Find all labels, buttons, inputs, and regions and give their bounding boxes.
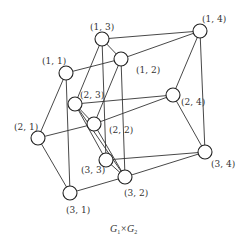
edge-1-1-to-2-1 xyxy=(38,73,66,138)
node-2-4 xyxy=(166,88,180,102)
edge-2-1-to-3-1 xyxy=(38,138,70,193)
node-label-2-3: (2, 3) xyxy=(80,90,104,100)
node-label-1-2: (1, 2) xyxy=(136,65,160,75)
node-label-1-4: (1, 4) xyxy=(202,14,226,24)
node-label-3-1: (3, 1) xyxy=(66,205,90,215)
edge-3-3-to-3-4 xyxy=(106,152,205,160)
diagram-caption: G1×G2 xyxy=(110,223,137,235)
labels-group: (1, 1)(1, 3)(1, 2)(1, 4)(2, 3)(2, 2)(2, … xyxy=(14,14,235,215)
edge-3-2-to-3-4 xyxy=(125,152,205,177)
edge-1-1-to-3-1 xyxy=(66,73,70,193)
edge-3-1-to-3-2 xyxy=(70,177,125,193)
edge-1-1-to-1-2 xyxy=(66,59,121,73)
node-label-3-4: (3, 4) xyxy=(211,159,235,169)
node-2-2 xyxy=(87,117,101,131)
node-label-3-2: (3, 2) xyxy=(124,188,148,198)
node-label-2-4: (2, 4) xyxy=(181,97,205,107)
node-2-1 xyxy=(31,131,45,145)
edge-1-3-to-1-4 xyxy=(102,31,200,39)
node-label-1-3: (1, 3) xyxy=(90,22,114,32)
node-label-2-2: (2, 2) xyxy=(109,125,133,135)
node-1-3 xyxy=(95,32,109,46)
node-1-1 xyxy=(59,66,73,80)
node-label-3-3: (3, 3) xyxy=(81,165,105,175)
edge-1-4-to-3-4 xyxy=(200,31,205,152)
node-label-1-1: (1, 1) xyxy=(42,56,66,66)
node-label-2-1: (2, 1) xyxy=(14,122,38,132)
node-3-4 xyxy=(198,145,212,159)
edge-2-2-to-2-4 xyxy=(94,95,173,124)
edge-1-2-to-3-2 xyxy=(121,59,125,177)
node-1-2 xyxy=(114,52,128,66)
node-1-4 xyxy=(193,24,207,38)
edge-1-4-to-2-4 xyxy=(173,31,200,95)
edge-2-3-to-3-3 xyxy=(75,104,106,160)
edge-1-2-to-1-4 xyxy=(121,31,200,59)
graph-product-diagram: (1, 1)(1, 3)(1, 2)(1, 4)(2, 3)(2, 2)(2, … xyxy=(0,0,248,249)
node-3-1 xyxy=(63,186,77,200)
node-3-2 xyxy=(118,170,132,184)
nodes-group xyxy=(31,24,212,200)
edge-2-1-to-2-2 xyxy=(38,124,94,138)
